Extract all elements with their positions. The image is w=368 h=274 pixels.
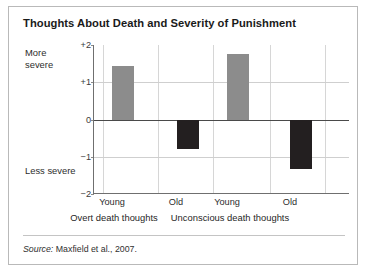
x-tick-label-old-unconscious: Old: [260, 197, 320, 207]
source-line: Source: Maxfield et al., 2007.: [23, 244, 137, 254]
source-divider: [23, 235, 345, 236]
y-tick-mark-minus2: [91, 194, 94, 195]
bar-old-overt[interactable]: [177, 120, 199, 149]
x-tick-label-young-unconscious: Young: [197, 197, 257, 207]
group-label-unconscious: Unconscious death thoughts: [165, 212, 295, 224]
figure-card: Thoughts About Death and Severity of Pun…: [8, 6, 358, 265]
plot-area: [93, 45, 349, 194]
x-tick-label-young-overt: Young: [82, 197, 142, 207]
bar-young-overt[interactable]: [112, 66, 134, 120]
y-tick-label-zero: 0: [69, 116, 91, 125]
y-axis-ticks: +2 +1 0 −1 −2: [65, 45, 91, 194]
bar-old-unconscious[interactable]: [290, 120, 312, 170]
y-tick-label-plus1: +1: [69, 78, 91, 87]
source-keyword: Source:: [23, 244, 53, 254]
chart-plot: More severe Less severe +2 +1 0 −1 −2: [9, 7, 359, 266]
source-citation: Maxfield et al., 2007.: [53, 244, 137, 254]
y-tick-label-plus2: +2: [69, 41, 91, 50]
bar-young-unconscious[interactable]: [227, 54, 249, 120]
y-tick-label-minus1: −1: [69, 153, 91, 162]
group-label-overt: Overt death thoughts: [49, 212, 179, 224]
